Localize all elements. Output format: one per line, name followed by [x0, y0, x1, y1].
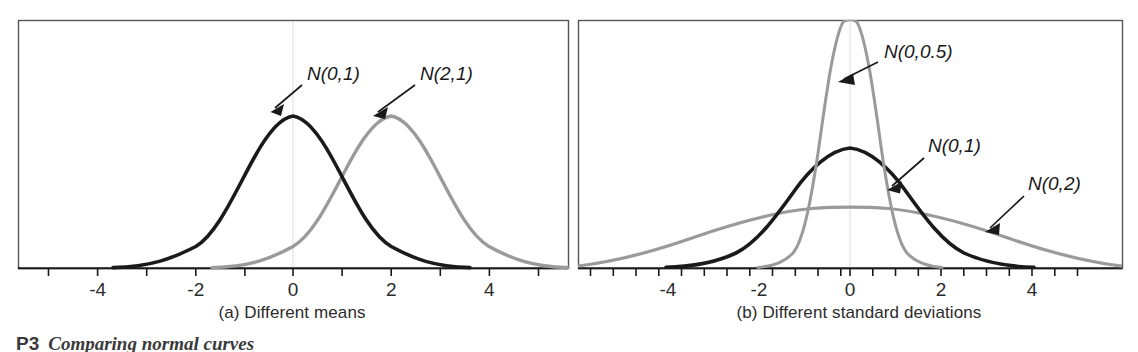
x-tick-label: 0 [845, 279, 856, 300]
panel-different-means: -4 -2 0 2 4 N(0,1) N(2,1) (a) [0, 0, 572, 352]
series-label-n-0-2: N(0,2) [1028, 173, 1081, 194]
figure-caption: P3Comparing normal curves [16, 333, 254, 352]
x-tick-label: -4 [89, 279, 106, 300]
x-tick-label: 0 [288, 279, 299, 300]
x-tick-label: 2 [386, 279, 397, 300]
x-tick-label: 2 [936, 279, 947, 300]
x-tick-label: 4 [1027, 279, 1038, 300]
subcaption-panel-a: (a) Different means [6, 303, 578, 323]
figure-caption-title: Comparing normal curves [48, 333, 254, 352]
panel-different-standard-deviations: -4 -2 0 2 4 N(0,0.5) [572, 0, 1138, 352]
x-tick-label: 4 [484, 279, 495, 300]
series-label-n-0-1: N(0,1) [928, 135, 981, 156]
series-label-n-0-0-5: N(0,0.5) [884, 41, 953, 62]
series-label-n-2-1: N(2,1) [420, 63, 473, 84]
chart-different-standard-deviations: -4 -2 0 2 4 N(0,0.5) [572, 0, 1138, 300]
x-axis-tick-labels: -4 -2 0 2 4 [89, 279, 495, 300]
subcaption-panel-b: (b) Different standard deviations [576, 303, 1138, 323]
x-tick-label: -4 [660, 279, 677, 300]
figure-normal-curves: -4 -2 0 2 4 N(0,1) N(2,1) (a) [0, 0, 1138, 352]
x-tick-label: -2 [187, 279, 204, 300]
series-label-n-0-1: N(0,1) [307, 63, 360, 84]
x-tick-label: -2 [751, 279, 768, 300]
x-axis-tick-labels: -4 -2 0 2 4 [660, 279, 1038, 300]
figure-caption-label: P3 [16, 333, 39, 352]
chart-different-means: -4 -2 0 2 4 N(0,1) N(2,1) [0, 0, 572, 300]
